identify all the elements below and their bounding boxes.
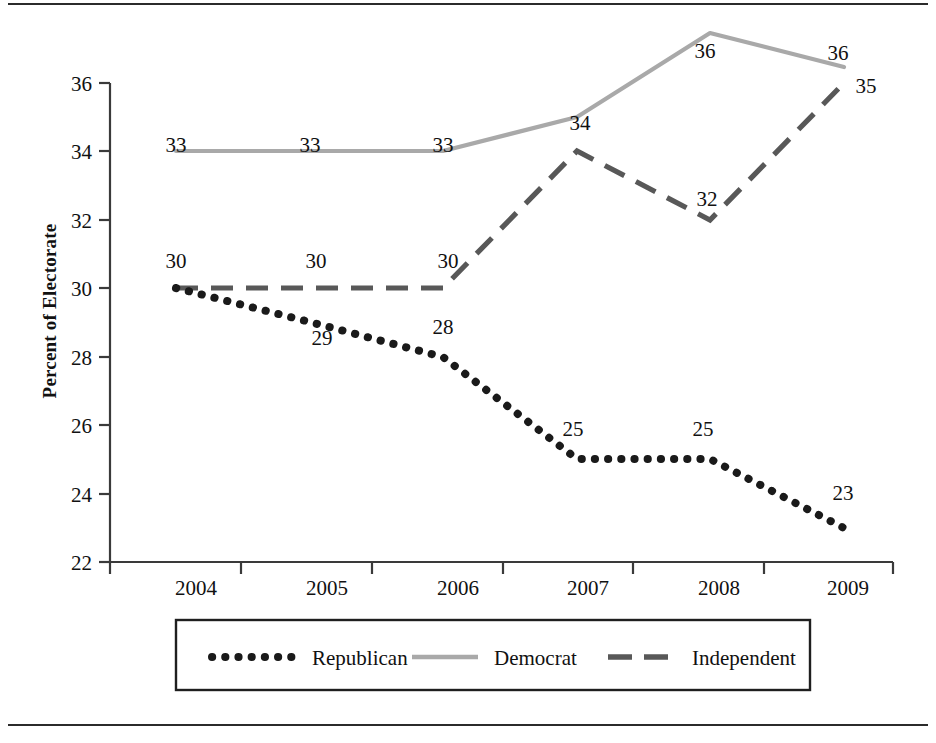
- label-independent-2005: 30: [306, 249, 327, 273]
- label-independent-2008: 32: [697, 187, 718, 211]
- label-republican-2008: 25: [693, 417, 714, 441]
- x-tick-label-2009: 2009: [827, 576, 869, 600]
- label-independent-2006: 30: [438, 249, 459, 273]
- label-republican-2007: 25: [563, 417, 584, 441]
- plot-area: 36 34 32 30 28 26 24 22 2004 2005: [0, 0, 936, 743]
- x-axis: 2004 2005 2006 2007 2008 2009: [110, 562, 893, 600]
- label-independent-2009: 36: [828, 41, 849, 65]
- label-republican-2009: 23: [833, 481, 854, 505]
- x-tick-label-2005: 2005: [306, 576, 348, 600]
- y-tick-label-32: 32: [71, 209, 92, 233]
- label-democrat-2009: 35: [856, 74, 877, 98]
- label-republican-2005: 29: [312, 326, 333, 350]
- data-point-labels: 33 33 33 36 35 30 30 30 34 32 36 30 29 2…: [166, 39, 877, 505]
- x-tick-label-2007: 2007: [567, 576, 609, 600]
- series-democrat: [176, 33, 844, 151]
- legend-label-republican: Republican: [312, 646, 408, 670]
- legend-label-independent: Independent: [692, 646, 796, 670]
- label-democrat-2005: 33: [300, 133, 321, 157]
- x-tick-label-2004: 2004: [175, 576, 218, 600]
- y-tick-label-26: 26: [71, 414, 92, 438]
- y-tick-label-36: 36: [71, 72, 92, 96]
- y-tick-label-30: 30: [71, 277, 92, 301]
- y-tick-label-24: 24: [71, 483, 93, 507]
- label-independent-2007: 34: [570, 111, 592, 135]
- label-democrat-2006: 33: [433, 133, 454, 157]
- series-republican: [176, 288, 844, 528]
- label-republican-2006: 28: [433, 315, 454, 339]
- x-tick-label-2006: 2006: [437, 576, 479, 600]
- legend-label-democrat: Democrat: [494, 646, 577, 670]
- label-democrat-2004: 33: [166, 133, 187, 157]
- y-tick-label-28: 28: [71, 346, 92, 370]
- series-independent: [176, 83, 844, 288]
- x-tick-label-2008: 2008: [698, 576, 740, 600]
- label-democrat-2008: 36: [695, 39, 716, 63]
- legend: Republican Democrat Independent: [176, 620, 810, 690]
- y-axis: 36 34 32 30 28 26 24 22: [71, 72, 110, 575]
- figure-container: Percent of Electorate 36 34 32 30 28: [0, 0, 936, 743]
- y-tick-label-22: 22: [71, 551, 92, 575]
- y-tick-label-34: 34: [71, 140, 93, 164]
